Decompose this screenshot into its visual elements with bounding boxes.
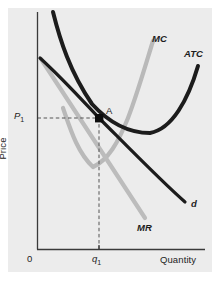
curve-label-mc: MC	[152, 33, 167, 44]
x-axis-tick-label-q1: q1	[92, 253, 101, 264]
y-axis-label: Price	[0, 137, 8, 159]
economics-diagram-figure: Price Quantity 0 P1 q1 MC ATC MR d A	[0, 0, 220, 286]
curve-mc	[63, 41, 153, 167]
y-tick-p1-sub: 1	[20, 116, 24, 123]
curve-label-mr: MR	[137, 222, 152, 233]
curve-mr	[41, 59, 145, 218]
curve-label-demand: d	[191, 198, 197, 209]
curve-atc	[53, 12, 198, 133]
x-tick-q1-sub: 1	[97, 259, 101, 266]
curve-label-atc: ATC	[184, 48, 203, 59]
y-axis-tick-label-p1: P1	[14, 110, 24, 121]
chart-plot-area	[0, 0, 220, 286]
x-axis-label: Quantity	[160, 254, 196, 265]
point-a-marker	[95, 114, 103, 122]
origin-label: 0	[27, 253, 32, 264]
point-a-label: A	[106, 105, 112, 116]
curve-demand	[40, 58, 185, 202]
